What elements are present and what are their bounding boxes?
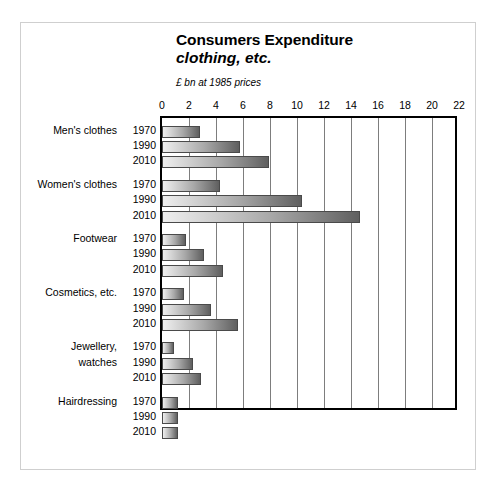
bar[interactable] xyxy=(162,412,178,424)
bar[interactable] xyxy=(162,249,204,261)
bar[interactable] xyxy=(162,358,193,370)
bar-row xyxy=(162,341,459,355)
year-label-1990: 1990 xyxy=(133,409,156,423)
x-tick-label: 14 xyxy=(345,99,357,111)
category-label: Men's clothes xyxy=(53,123,117,137)
x-tick-label: 6 xyxy=(240,99,246,111)
bar[interactable] xyxy=(162,304,211,316)
year-label-1970: 1970 xyxy=(133,177,156,191)
x-tick-label: 10 xyxy=(291,99,303,111)
year-label-2010: 2010 xyxy=(133,208,156,222)
year-label-1970: 1970 xyxy=(133,285,156,299)
year-label-1970: 1970 xyxy=(133,339,156,353)
figure-frame: Consumers Expenditure clothing, etc. £ b… xyxy=(20,22,476,470)
year-label-1990: 1990 xyxy=(133,301,156,315)
bar-row xyxy=(162,372,459,386)
year-label-2010: 2010 xyxy=(133,316,156,330)
bar[interactable] xyxy=(162,288,184,300)
year-label-1990: 1990 xyxy=(133,192,156,206)
x-tick-label: 22 xyxy=(453,99,465,111)
bar[interactable] xyxy=(162,373,201,385)
bar-row xyxy=(162,179,459,193)
x-tick-label: 16 xyxy=(372,99,384,111)
year-label-2010: 2010 xyxy=(133,262,156,276)
bar-row xyxy=(162,396,459,410)
category-label: Women's clothes xyxy=(38,177,117,191)
bar-row xyxy=(162,248,459,262)
title-block: Consumers Expenditure clothing, etc. xyxy=(176,31,476,67)
x-tick-label: 4 xyxy=(213,99,219,111)
x-tick-label: 8 xyxy=(267,99,273,111)
bar-row xyxy=(162,357,459,371)
year-label-1970: 1970 xyxy=(133,231,156,245)
category-label: Cosmetics, etc. xyxy=(45,285,117,299)
bar-row xyxy=(162,194,459,208)
year-label-1990: 1990 xyxy=(133,355,156,369)
page-title: Consumers Expenditure xyxy=(176,31,476,49)
bar[interactable] xyxy=(162,180,220,192)
bar[interactable] xyxy=(162,397,178,409)
bar-row xyxy=(162,426,459,440)
bar-row xyxy=(162,125,459,139)
x-tick-label: 12 xyxy=(318,99,330,111)
year-label-1990: 1990 xyxy=(133,246,156,260)
cropped-caption-sliver xyxy=(22,476,25,484)
bar[interactable] xyxy=(162,427,178,439)
bar[interactable] xyxy=(162,141,240,153)
category-label: Jewellery, xyxy=(71,339,117,353)
bar[interactable] xyxy=(162,195,302,207)
units-note: £ bn at 1985 prices xyxy=(176,77,261,88)
bar[interactable] xyxy=(162,156,269,168)
x-axis-tick-labels: 0246810121416182022 xyxy=(160,99,457,113)
bar-row xyxy=(162,155,459,169)
x-tick-label: 18 xyxy=(399,99,411,111)
x-tick-label: 20 xyxy=(426,99,438,111)
bar-row xyxy=(162,318,459,332)
year-label-2010: 2010 xyxy=(133,424,156,438)
x-tick-label: 0 xyxy=(159,99,165,111)
chart-subtitle: clothing, etc. xyxy=(176,49,476,67)
category-label-gutter: 197019902010Men's clothes197019902010Wom… xyxy=(21,116,160,410)
bar-row xyxy=(162,210,459,224)
bar[interactable] xyxy=(162,342,174,354)
bar[interactable] xyxy=(162,126,200,138)
plot-area xyxy=(160,116,457,410)
category-label: watches xyxy=(78,355,117,369)
bar[interactable] xyxy=(162,211,360,223)
year-label-1970: 1970 xyxy=(133,394,156,408)
bar-row xyxy=(162,303,459,317)
bar-row xyxy=(162,264,459,278)
bar-row xyxy=(162,140,459,154)
year-label-2010: 2010 xyxy=(133,153,156,167)
year-label-1990: 1990 xyxy=(133,138,156,152)
bar-row xyxy=(162,287,459,301)
chart-page: Consumers Expenditure clothing, etc. £ b… xyxy=(0,0,496,487)
category-label: Hairdressing xyxy=(58,394,117,408)
bar[interactable] xyxy=(162,265,223,277)
year-label-1970: 1970 xyxy=(133,123,156,137)
category-label: Footwear xyxy=(73,231,117,245)
bar-row xyxy=(162,233,459,247)
x-tick-label: 2 xyxy=(186,99,192,111)
year-label-2010: 2010 xyxy=(133,370,156,384)
bar[interactable] xyxy=(162,234,186,246)
bar-row xyxy=(162,411,459,425)
bar[interactable] xyxy=(162,319,238,331)
